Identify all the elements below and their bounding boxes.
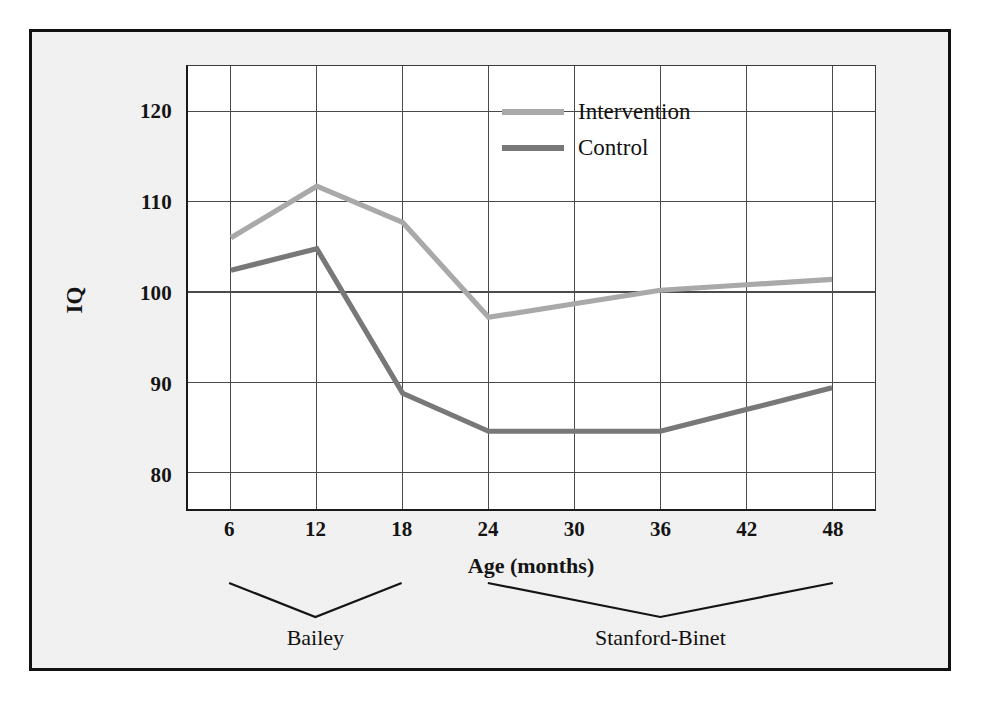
x-axis-tick-labels: 612182430364248: [186, 517, 876, 547]
legend-entry: Intervention: [502, 94, 690, 130]
chart-legend: InterventionControl: [502, 94, 690, 166]
y-tick-label: 120: [114, 98, 172, 123]
x-tick-label: 36: [630, 517, 690, 542]
y-tick-label: 90: [114, 371, 172, 396]
legend-swatch-icon: [502, 109, 564, 115]
y-tick-label: 100: [114, 280, 172, 305]
x-tick-label: 24: [458, 517, 518, 542]
x-tick-label: 48: [803, 517, 863, 542]
brace-label: Bailey: [287, 625, 344, 651]
x-tick-label: 30: [544, 517, 604, 542]
brace-stanford-binet: [488, 583, 833, 617]
legend-label: Intervention: [578, 99, 690, 125]
x-tick-label: 18: [372, 517, 432, 542]
legend-label: Control: [578, 135, 648, 161]
y-tick-label: 110: [114, 189, 172, 214]
x-tick-label: 42: [717, 517, 777, 542]
series-line-control: [231, 249, 832, 432]
x-axis-label: Age (months): [186, 553, 876, 579]
brace-lines: [32, 577, 954, 627]
x-tick-label: 12: [285, 517, 345, 542]
y-tick-label: 80: [114, 462, 172, 487]
y-axis-label: IQ: [62, 287, 88, 314]
legend-swatch-icon: [502, 145, 564, 151]
brace-label: Stanford-Binet: [595, 625, 726, 651]
figure-frame: IQ 8090100110120 612182430364248 Age (mo…: [29, 29, 951, 671]
figure-canvas: IQ 8090100110120 612182430364248 Age (mo…: [0, 0, 981, 702]
instrument-annotations: BaileyStanford-Binet: [32, 577, 954, 672]
brace-bailey: [229, 583, 402, 617]
legend-entry: Control: [502, 130, 690, 166]
x-tick-label: 6: [199, 517, 259, 542]
